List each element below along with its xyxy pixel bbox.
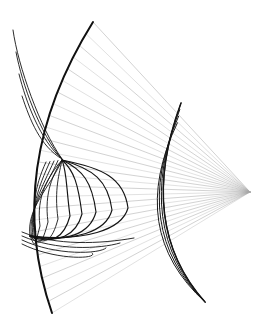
caustic-figure-svg: [0, 0, 269, 330]
caustic-figure-container: [0, 0, 269, 330]
figure-background: [0, 0, 269, 330]
